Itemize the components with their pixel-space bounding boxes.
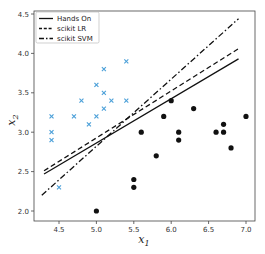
dot-marker bbox=[161, 114, 166, 119]
dot-marker bbox=[176, 130, 181, 135]
dot-marker bbox=[176, 137, 181, 142]
y-tick-label: 3.0 bbox=[18, 129, 29, 137]
dot-marker bbox=[94, 208, 99, 213]
x-tick-label: 6.0 bbox=[166, 226, 177, 234]
legend-label: scikit SVM bbox=[57, 35, 93, 43]
x-axis-label: x1 bbox=[138, 233, 149, 248]
y-tick-label: 2.5 bbox=[18, 168, 29, 176]
dot-marker bbox=[228, 145, 233, 150]
dot-marker bbox=[131, 177, 136, 182]
dot-marker bbox=[191, 106, 196, 111]
dot-marker bbox=[154, 153, 159, 158]
y-tick-label: 4.0 bbox=[18, 50, 29, 58]
dot-marker bbox=[131, 185, 136, 190]
dot-marker bbox=[221, 130, 226, 135]
dot-marker bbox=[169, 98, 174, 103]
y-tick-label: 2.0 bbox=[18, 208, 29, 216]
x-tick-label: 7.0 bbox=[240, 226, 251, 234]
dot-marker bbox=[243, 114, 248, 119]
y-axis: 2.02.53.03.54.04.5 bbox=[18, 11, 34, 216]
x-axis: 4.55.05.56.06.57.0 bbox=[53, 221, 251, 234]
scatter-chart: 4.55.05.56.06.57.0 2.02.53.03.54.04.5 x1… bbox=[0, 0, 265, 254]
y-tick-label: 4.5 bbox=[18, 11, 29, 19]
x-tick-label: 4.5 bbox=[53, 226, 64, 234]
x-tick-label: 5.0 bbox=[91, 226, 102, 234]
legend-label: scikit LR bbox=[57, 25, 86, 33]
legend-label: Hands On bbox=[57, 15, 91, 23]
dot-marker bbox=[221, 122, 226, 127]
x-tick-label: 6.5 bbox=[203, 226, 214, 234]
y-axis-label: x2 bbox=[5, 114, 20, 125]
dot-marker bbox=[213, 130, 218, 135]
legend: Hands Onscikit LRscikit SVM bbox=[36, 12, 99, 43]
dot-marker bbox=[139, 130, 144, 135]
y-tick-label: 3.5 bbox=[18, 89, 29, 97]
